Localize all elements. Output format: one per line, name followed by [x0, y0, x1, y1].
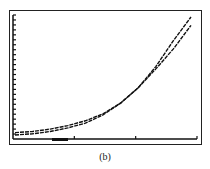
- figure-caption: (b): [0, 151, 210, 162]
- calculator-graph-screen: [9, 10, 202, 145]
- baseline-marker: [52, 138, 68, 141]
- plot-area: [10, 11, 200, 143]
- curve-2: [15, 25, 191, 135]
